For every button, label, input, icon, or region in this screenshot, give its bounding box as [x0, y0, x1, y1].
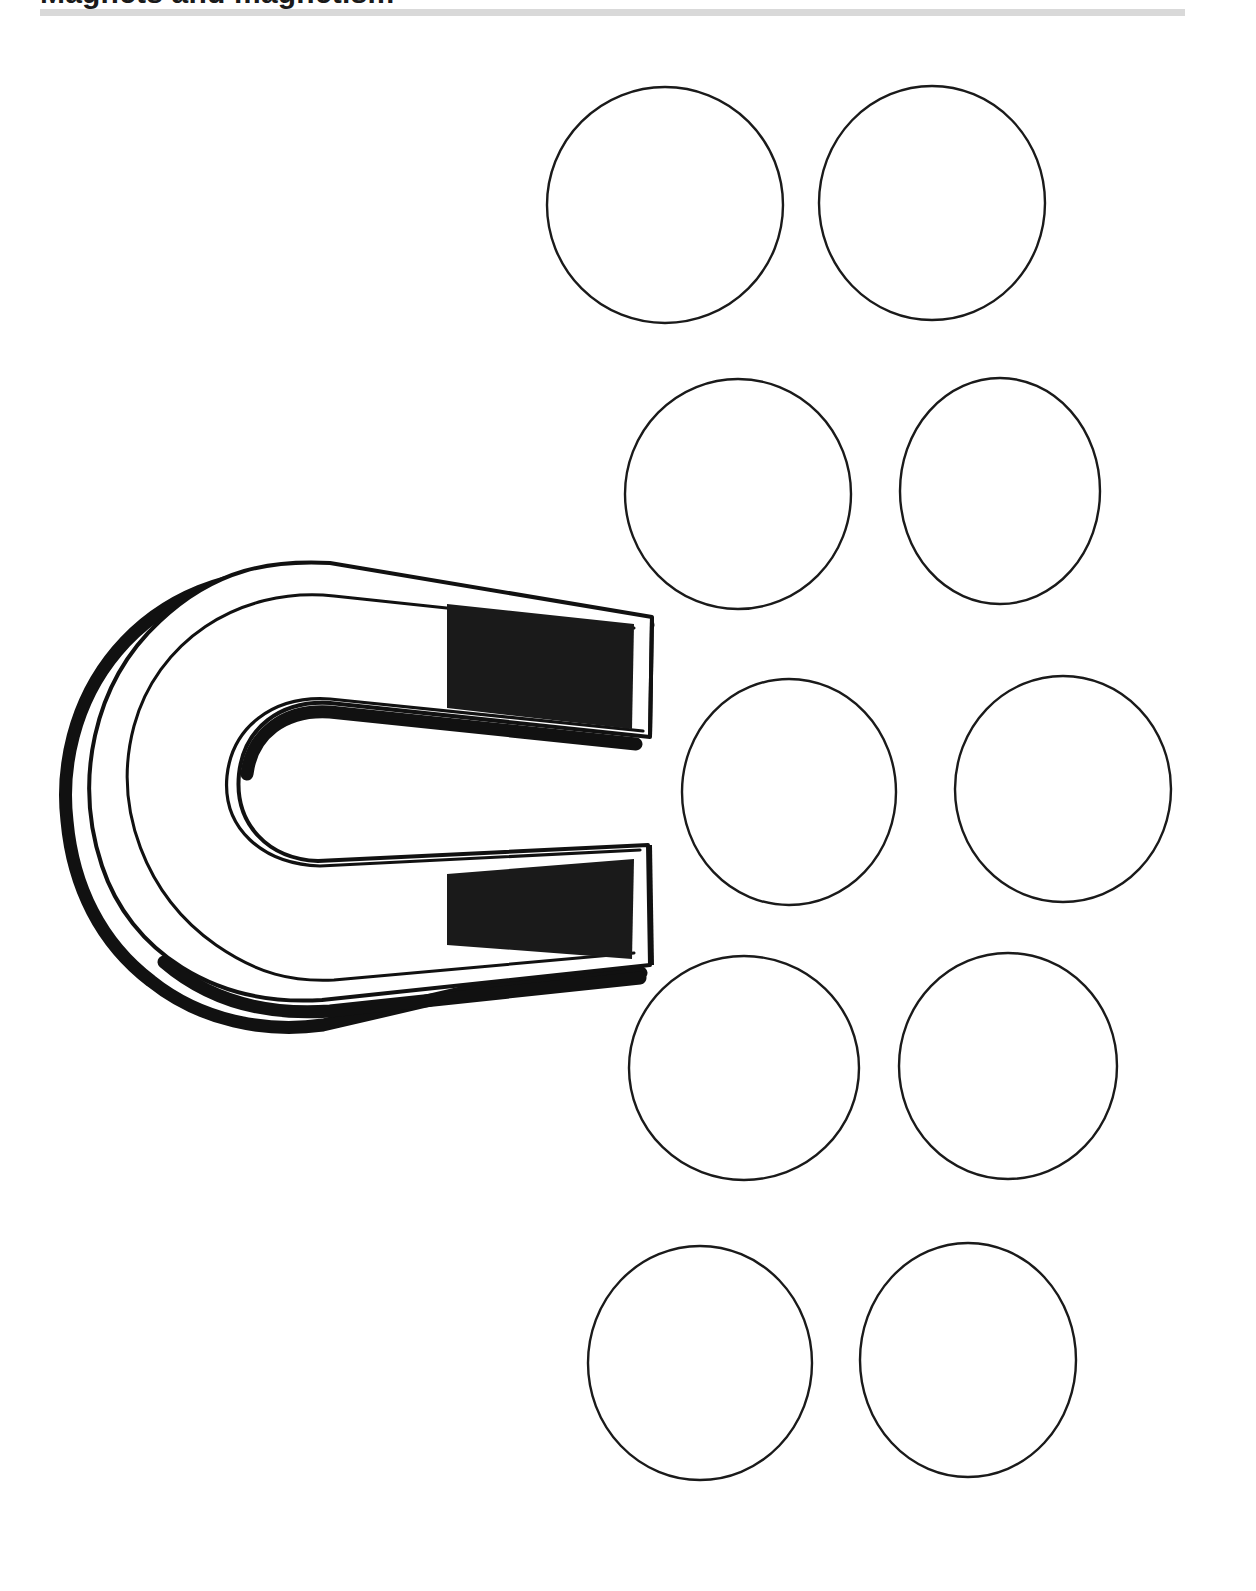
circle-8[interactable] [899, 953, 1117, 1179]
magnet-lower-tip-edge [650, 845, 652, 965]
horseshoe-magnet [66, 562, 652, 1027]
circle-5[interactable] [682, 679, 896, 905]
circle-6[interactable] [955, 676, 1171, 902]
worksheet-artwork [0, 0, 1256, 1591]
circle-group [547, 86, 1171, 1480]
magnet-pole-tip-lower [447, 859, 634, 959]
magnet-pole-tip-upper [447, 604, 634, 729]
circle-10[interactable] [860, 1243, 1076, 1477]
circle-2[interactable] [819, 86, 1045, 320]
magnet-upper-tip-edge [650, 617, 652, 737]
circle-1[interactable] [547, 87, 783, 323]
circle-7[interactable] [629, 956, 859, 1180]
circle-4[interactable] [900, 378, 1100, 604]
circle-9[interactable] [588, 1246, 812, 1480]
circle-3[interactable] [625, 379, 851, 609]
worksheet-page: Magnets and magnetism [0, 0, 1256, 1591]
